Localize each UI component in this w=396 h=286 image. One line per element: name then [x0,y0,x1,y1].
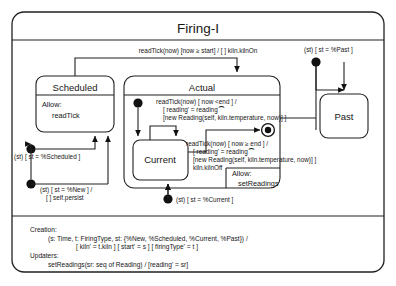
footer-creation-line1: (s: Time, t: FiringType, st: {%New, %Sch… [48,235,248,243]
label-scheduled-to-actual: readTick(now) [now ≥ start] / [ ] kiln.k… [139,47,258,55]
label-entry-scheduled: (st) [ st = %Scheduled ] [14,153,80,161]
diagram-canvas: Firing-I Scheduled Allow: readTick Actua… [0,0,396,286]
page-title: Firing-I [177,21,219,36]
label-current-final-line2: [ reading' = reading ⁀ [193,148,255,156]
state-past-label: Past [334,111,353,122]
label-current-final-line4: kiln.kilnOff [193,164,223,171]
label-entry-past: (st) [ st = %Past ] [304,46,353,54]
state-current-label: Current [144,154,176,165]
initial-dot-current [133,98,142,107]
footer-creation-line2: [ kiln' = t.kiln ] [ start' = s ] [ firi… [76,243,198,251]
label-current-final-line3: [new Reading(self, kiln.temperature, now… [193,156,316,164]
final-state-circle-inner [265,127,271,133]
state-scheduled-allow-header: Allow: [42,100,61,109]
label-entry-new-line1: (st) [ st = %New ] / [40,186,93,194]
footer-updaters-header: Updaters: [30,252,59,260]
state-scheduled-label: Scheduled [53,82,98,93]
footer-creation-header: Creation: [30,226,57,233]
footer-updaters-line1: setReadings(sr: seq of Reading) / [readi… [48,261,188,269]
label-current-self-line2: [ reading' = reading ⁀ [163,106,225,114]
state-actual-allow-header: Allow: [232,169,251,178]
state-actual-label: Actual [189,82,215,93]
statechart-svg: Firing-I Scheduled Allow: readTick Actua… [0,0,396,286]
label-entry-current: (st) [ st = %Current ] [176,196,234,204]
label-current-self-line1: readTick(now) [ now <end ] / [156,98,237,106]
label-current-self-line3: [new Reading(self, kiln.temperature, now… [163,114,286,122]
label-entry-new-line2: [ ] self.persist [46,194,84,202]
initial-dot-past [311,57,320,66]
state-actual-allow-body: setReadings [238,179,279,188]
state-scheduled-allow-body: readTick [52,111,80,120]
label-current-final-line1: readTick(now) [ now ≥ end ] / [186,140,268,148]
